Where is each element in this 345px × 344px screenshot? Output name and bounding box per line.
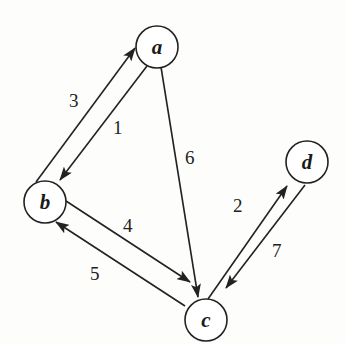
edge-weight-d-c: 7 [272, 240, 282, 261]
edge-b-to-a [36, 48, 135, 182]
node-b: b [24, 181, 66, 223]
edge-weight-a-b: 1 [113, 117, 123, 138]
edge-c-to-b [56, 222, 185, 306]
graph-canvas: 3 1 6 4 5 2 7 a b c d [0, 0, 345, 344]
edge-weight-c-b: 5 [90, 263, 100, 284]
node-c-label: c [201, 308, 211, 332]
node-a-label: a [152, 35, 163, 59]
edge-weight-a-c: 6 [185, 147, 195, 168]
edge-weight-c-d: 2 [233, 195, 243, 216]
edge-a-to-c [161, 67, 198, 297]
edge-weight-b-a: 3 [69, 90, 79, 111]
node-b-label: b [40, 190, 51, 214]
edge-a-to-b [60, 66, 147, 180]
node-d: d [286, 141, 328, 183]
node-d-label: d [302, 150, 313, 174]
node-c: c [185, 299, 227, 341]
node-a: a [136, 26, 178, 68]
edge-weight-b-c: 4 [123, 215, 133, 236]
